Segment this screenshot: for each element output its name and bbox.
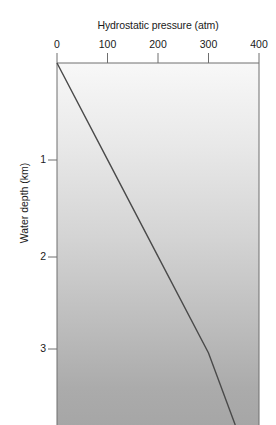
chart-figure: Hydrostatic pressure (atm) 0 100 200 300… [0,0,276,425]
pressure-depth-line [57,63,235,425]
plot-overlay [0,0,276,425]
